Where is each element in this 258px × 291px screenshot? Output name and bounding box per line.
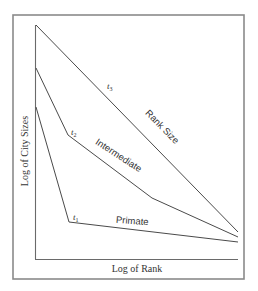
t3-label: t3 — [107, 81, 113, 92]
x-axis-title: Log of Rank — [112, 263, 163, 274]
chart-figure: t3 t2 t1 Rank Size Intermediate Primate … — [0, 0, 258, 291]
t1-label: t1 — [73, 212, 79, 223]
series-label-rank-size: Rank Size — [143, 107, 181, 146]
y-axis-title: Log of City Sizes — [19, 116, 30, 186]
series-label-primate: Primate — [116, 214, 149, 228]
series-label-intermediate: Intermediate — [94, 136, 144, 174]
t2-label: t2 — [71, 127, 77, 138]
series-line-rank-size — [36, 25, 238, 232]
